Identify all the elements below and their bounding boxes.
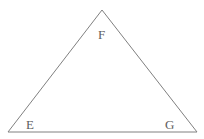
triangle-figure: F E G xyxy=(0,0,204,139)
vertex-label-g: G xyxy=(165,118,174,131)
vertex-label-f: F xyxy=(98,28,105,41)
vertex-label-e: E xyxy=(26,118,34,131)
